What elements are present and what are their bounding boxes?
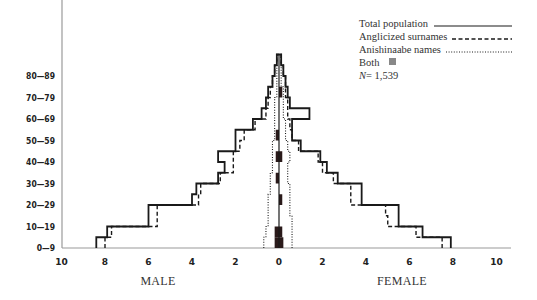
x-tick-male: 0 (276, 257, 282, 267)
legend-label-both: Both (359, 57, 380, 68)
female-axis-label: FEMALE (377, 274, 427, 288)
x-tick-female: 2 (319, 257, 325, 267)
x-tick-female: 8 (450, 257, 456, 267)
age-label: 30—39 (26, 179, 55, 189)
age-label: 80—89 (26, 71, 55, 81)
age-label: 50—59 (26, 136, 55, 146)
both-bar-male (275, 227, 279, 238)
age-label: 0—9 (37, 243, 55, 253)
sample-size-label: N= 1,539 (358, 70, 398, 81)
x-axis-tick-labels: 1086420246810 (55, 257, 503, 267)
x-tick-female: 6 (406, 257, 412, 267)
legend-label-total: Total population (359, 18, 429, 29)
x-tick-female: 10 (490, 257, 503, 267)
x-tick-male: 6 (145, 257, 151, 267)
age-label: 10—19 (26, 222, 55, 232)
legend-label-anishinaabe: Anishinaabe names (359, 44, 441, 55)
x-tick-male: 2 (232, 257, 238, 267)
age-label: 40—49 (26, 157, 55, 167)
x-tick-male: 4 (189, 257, 195, 267)
legend: Total population Anglicized surnames Ani… (358, 18, 512, 81)
age-label: 20—29 (26, 200, 55, 210)
age-label: 60—69 (26, 114, 55, 124)
anglicized-surnames-male-outline (105, 55, 279, 249)
anglicized-surnames-female-outline (279, 55, 442, 249)
age-group-labels: 0—910—1920—2930—3940—4950—5960—6970—7980… (26, 71, 55, 253)
male-axis-label: MALE (140, 274, 175, 288)
legend-swatch-both (389, 58, 396, 65)
both-bar-male (275, 237, 279, 248)
population-pyramid-chart: 0—910—1920—2930—3940—4950—5960—6970—7980… (0, 0, 537, 300)
x-tick-male: 10 (55, 257, 68, 267)
x-tick-male: 8 (102, 257, 108, 267)
total-population-male-outline (96, 55, 279, 249)
n-value: = 1,539 (366, 70, 398, 81)
age-label: 70—79 (26, 93, 55, 103)
x-tick-female: 4 (363, 257, 369, 267)
series-layer (96, 55, 451, 249)
legend-label-anglicized: Anglicized surnames (359, 31, 447, 42)
both-bar-female (279, 237, 283, 248)
